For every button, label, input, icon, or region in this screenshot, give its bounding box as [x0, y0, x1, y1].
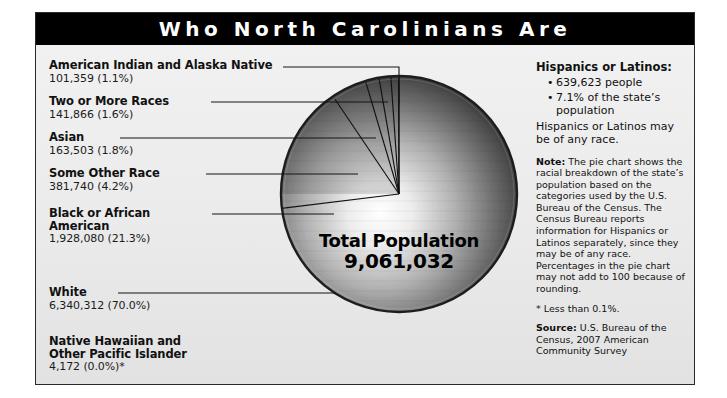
- side-notes-panel: Hispanics or Latinos: 639,623 people 7.1…: [536, 61, 686, 357]
- hispanic-bullet-list: 639,623 people 7.1% of the state’s popul…: [536, 76, 686, 118]
- title-bar: Who North Carolinians Are: [36, 13, 694, 45]
- footnote: * Less than 0.1%.: [536, 303, 686, 315]
- pie-chart-svg: [278, 73, 520, 315]
- callout-value: 141,866 (1.6%): [49, 108, 299, 121]
- callout-label: Black or African American: [49, 207, 299, 232]
- list-item: 7.1% of the state’s population: [556, 91, 686, 118]
- callout-value: 1,928,080 (21.3%): [49, 232, 299, 245]
- hispanic-heading: Hispanics or Latinos:: [536, 61, 686, 74]
- hispanic-any-race-note: Hispanics or Latinos may be of any race.: [536, 120, 686, 147]
- callout-two-or-more-races: Two or More Races 141,866 (1.6%): [49, 95, 299, 121]
- callout-value: 4,172 (0.0%)*: [49, 360, 299, 373]
- source-note: Source: U.S. Bureau of the Census, 2007 …: [536, 322, 686, 357]
- chart-body: Total Population 9,061,032: [36, 45, 694, 386]
- callout-value: 381,740 (4.2%): [49, 180, 299, 193]
- infographic-panel: Who North Carolinians Are: [35, 12, 695, 385]
- methodology-note: Note: The pie chart shows the racial bre…: [536, 156, 686, 295]
- callout-label: Two or More Races: [49, 95, 299, 108]
- page-title: Who North Carolinians Are: [159, 19, 572, 39]
- callout-value: 101,359 (1.1%): [49, 72, 299, 85]
- note-label: Note:: [536, 156, 565, 167]
- callout-black-african-american: Black or African American 1,928,080 (21.…: [49, 207, 299, 245]
- callout-american-indian: American Indian and Alaska Native 101,35…: [49, 59, 299, 85]
- callout-value: 6,340,312 (70.0%): [49, 299, 299, 312]
- callout-label: Asian: [49, 131, 299, 144]
- callout-label: American Indian and Alaska Native: [49, 59, 299, 72]
- callout-label: Some Other Race: [49, 167, 299, 180]
- pie-chart: [278, 73, 520, 315]
- callout-some-other-race: Some Other Race 381,740 (4.2%): [49, 167, 299, 193]
- callout-value: 163,503 (1.8%): [49, 144, 299, 157]
- list-item: 639,623 people: [556, 76, 686, 90]
- callout-label: Native Hawaiian and Other Pacific Island…: [49, 335, 299, 360]
- callout-asian: Asian 163,503 (1.8%): [49, 131, 299, 157]
- note-body: The pie chart shows the racial breakdown…: [536, 156, 685, 295]
- callout-native-hawaiian: Native Hawaiian and Other Pacific Island…: [49, 335, 299, 373]
- infographic-root: Who North Carolinians Are: [0, 0, 727, 398]
- callout-label: White: [49, 286, 299, 299]
- source-label: Source:: [536, 322, 577, 333]
- callout-white: White 6,340,312 (70.0%): [49, 286, 299, 312]
